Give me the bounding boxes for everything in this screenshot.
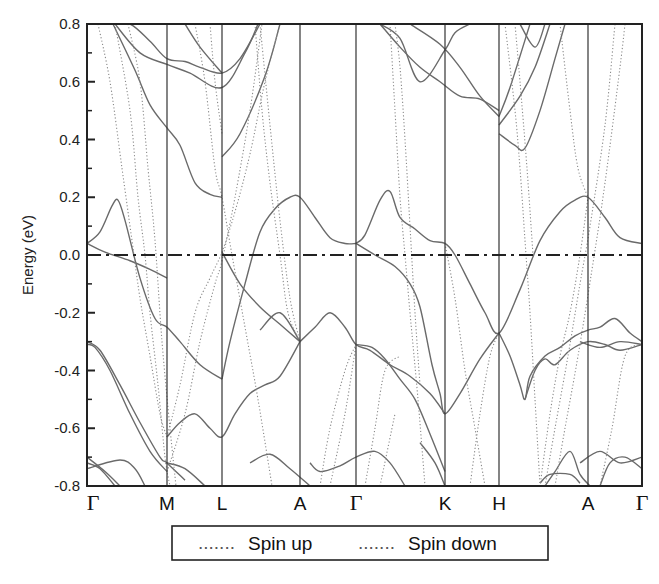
y-axis-ticks: -0.8-0.6-0.4-0.20.00.20.40.60.8: [54, 15, 95, 494]
kpoint-label: M: [159, 493, 175, 514]
kpoint-label: Γ: [87, 490, 100, 515]
spin-up-band: [250, 454, 310, 486]
spin-down-band: [255, 24, 300, 342]
spin-up-band: [185, 24, 222, 73]
spin-up-band: [420, 443, 445, 486]
spin-down-band: [470, 333, 499, 486]
kpoint-label: Γ: [636, 490, 649, 515]
spin-up-band: [499, 24, 550, 125]
spin-up-band: [356, 243, 499, 413]
spin-up-band: [167, 463, 205, 486]
spin-up-band: [115, 24, 258, 88]
kpoint-label: K: [439, 493, 452, 514]
kpoint-label: Γ: [350, 490, 363, 515]
kpoint-label: A: [294, 493, 307, 514]
spin-down-band: [210, 24, 222, 134]
spin-down-band: [380, 414, 395, 486]
spin-down-band: [320, 345, 356, 486]
spin-up-band: [222, 24, 280, 157]
y-tick-label: 0.2: [59, 188, 80, 205]
spin-up-band: [545, 451, 590, 486]
spin-up-band: [87, 463, 115, 486]
spin-up-band: [300, 313, 445, 414]
legend-spin-up-marker: .......: [198, 532, 235, 553]
y-tick-label: -0.2: [54, 304, 80, 321]
y-tick-label: -0.8: [54, 477, 80, 494]
y-tick-label: 0.4: [59, 131, 80, 148]
spin-up-band: [310, 451, 405, 486]
spin-down-band: [167, 24, 262, 472]
spin-up-band: [167, 342, 300, 438]
legend: ....... Spin up ....... Spin down: [172, 526, 548, 560]
y-tick-label: -0.6: [54, 419, 80, 436]
y-tick-label: 0.0: [59, 246, 80, 263]
spin-up-band: [87, 342, 185, 481]
y-tick-label: 0.8: [59, 15, 80, 32]
kpoint-label: H: [492, 493, 506, 514]
spin-up-band: [499, 318, 642, 399]
band-structure-chart: -0.8-0.6-0.4-0.20.00.20.40.60.8 ΓMLAΓKHA…: [0, 0, 659, 584]
legend-spin-down-label: Spin down: [408, 533, 497, 554]
spin-up-band: [87, 344, 167, 471]
spin-up-band: [600, 457, 642, 486]
kpoint-label: A: [582, 493, 595, 514]
legend-spin-down-marker: .......: [358, 532, 395, 553]
spin-down-band: [560, 24, 588, 197]
y-tick-label: 0.6: [59, 73, 80, 90]
spin-down-band: [98, 24, 167, 437]
spin-up-band: [499, 24, 565, 151]
spin-up-band: [525, 341, 642, 399]
spin-down-band: [600, 345, 642, 486]
legend-spin-up-label: Spin up: [248, 533, 312, 554]
y-tick-label: -0.4: [54, 362, 80, 379]
kpoint-label: L: [217, 493, 228, 514]
y-axis-label: Energy (eV): [19, 215, 36, 295]
spin-down-band: [365, 356, 400, 486]
spin-up-band: [87, 243, 167, 278]
spin-down-band: [445, 243, 485, 486]
x-axis-kpoint-labels: ΓMLAΓKHAΓ: [87, 490, 649, 515]
